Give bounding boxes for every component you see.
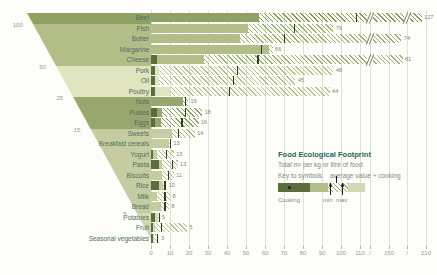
chart-title: Food Ecological Footprint [278,150,371,159]
bar-solid-segment [151,45,269,54]
bar-row: 19Nuts [0,97,437,108]
food-label: Poultry [0,87,149,97]
axis-tick-mark [189,246,190,249]
group-boundary-label: 5 [103,211,127,217]
legend-sample-bar [278,183,365,192]
bar-solid-segment [151,34,240,43]
group-boundary-label: 15 [56,127,80,133]
bar-cooking-segment [151,150,153,159]
average-value-tick [185,97,186,106]
bar-value-label: 5 [190,223,193,232]
axis-tick-label: 20 [179,250,199,256]
bar-cooking-segment [151,76,155,85]
legend-min-label: min [323,197,333,203]
bar-value-label: 5 [162,213,165,222]
bar-cooking-segment [151,234,153,243]
bar-value-label: 13 [180,160,186,169]
food-label: Nuts [0,97,149,107]
bar-minmax-hatch-segment [240,34,401,43]
bar-row: 18Pulses [0,108,437,119]
bar-minmax-hatch-segment [159,66,334,75]
average-value-tick [356,13,357,22]
group-boundary-label: 50 [22,64,46,70]
legend-cooking-segment [278,183,310,192]
food-label: Fruit [0,223,149,233]
bar-value-label: 3 [161,234,164,243]
bar-cooking-segment [151,66,155,75]
bar-cooking-segment [151,118,155,127]
average-value-tick [161,223,162,232]
legend-max-dot-icon [341,184,344,187]
bar-solid-segment [151,202,161,211]
food-label: Oil [0,76,149,86]
legend-average-label: average value + cooking [330,172,401,179]
average-value-tick [164,181,165,190]
axis-tick-mark [370,246,371,249]
average-value-tick [185,108,186,117]
bar-solid-segment [151,55,204,64]
bar-minmax-hatch-segment [159,76,296,85]
bar-solid-segment [151,129,172,138]
food-label: Margarine [0,45,149,55]
axis-tick-mark [407,246,408,249]
bar-value-label: 19 [191,97,197,106]
axis-tick-mark [322,246,323,249]
bar-row: 3Seasonal vegetables [0,234,437,245]
bar-value-label: 127 [424,13,433,22]
average-value-tick [181,118,182,127]
bar-row: 5Potatoes [0,213,437,224]
bar-row: 45Oil [0,76,437,87]
average-value-tick [178,129,179,138]
axis-tick-label: 40 [217,250,237,256]
legend-average-marker-line-icon [336,176,337,183]
group-boundary-label: 25 [39,95,63,101]
bar-cooking-segment [151,55,157,64]
average-value-tick [166,150,167,159]
bar-row: 8Milk [0,192,437,203]
axis-tick-mark [208,246,209,249]
bar-cooking-segment [151,160,159,169]
bar-value-label: 16 [201,118,207,127]
bar-value-label: 13 [173,139,179,148]
axis-tick-label: 50 [236,250,256,256]
average-value-tick [237,66,238,75]
bar-row: 5Fruit [0,223,437,234]
axis-tick-mark [341,246,342,249]
bar-row: 127Beef [0,13,437,24]
average-value-tick [284,34,285,43]
group-boundary-label: 100 [0,22,23,28]
axis-tick-label: 150 [379,250,399,256]
bar-solid-segment [151,139,169,148]
bar-cooking-segment [151,223,153,232]
axis-tick-label: 70 [274,250,294,256]
bar-value-label: 79 [336,24,342,33]
bar-value-label: 45 [298,76,304,85]
axis-break-icon [404,13,410,23]
average-value-tick [172,160,173,169]
bar-value-label: 10 [169,181,175,190]
bar-value-label: 74 [404,34,410,43]
bar-row: 13Yogurt [0,150,437,161]
axis-tick-mark [246,246,247,249]
bar-row: 13Pasta [0,160,437,171]
bar-solid-segment [151,97,183,106]
axis-tick-label: 80 [293,250,313,256]
axis-tick-mark [227,246,228,249]
bar-minmax-hatch-segment [162,160,177,169]
axis-tick-label: / [360,250,380,256]
bar-row: 10Rice [0,181,437,192]
axis-break-icon [367,13,373,23]
average-value-tick [168,171,169,180]
average-value-tick [157,234,158,243]
bar-minmax-hatch-segment [269,45,273,54]
bar-solid-segment [151,24,248,33]
bar-value-label: 48 [336,66,342,75]
axis-break-icon [367,34,373,44]
legend-key-label: Key to symbols [278,172,322,179]
average-value-tick [164,202,165,211]
axis-tick-mark [265,246,266,249]
bar-solid-segment [151,13,259,22]
bar-cooking-segment [151,87,155,96]
food-label: Biscuits [0,171,149,181]
food-label: Seasonal vegetables [0,234,149,244]
